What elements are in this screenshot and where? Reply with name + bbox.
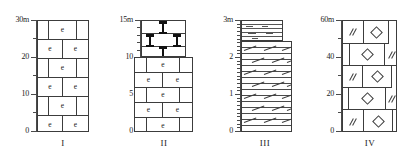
- axis-tick-minor: [237, 24, 240, 25]
- column-label-I: I: [33, 139, 93, 148]
- brick-row: [343, 21, 389, 44]
- axis-tick-minor: [237, 42, 240, 43]
- brick-cell: e: [163, 103, 192, 117]
- axis-tick-minor: [137, 42, 140, 43]
- brick-symbol: e: [48, 83, 51, 91]
- axis-tick-minor: [237, 127, 240, 128]
- brick-cell: [135, 118, 147, 132]
- brick-cell: [77, 59, 88, 77]
- limestone-line: [242, 113, 291, 114]
- brick-cell: [363, 66, 392, 87]
- brick-cell: [350, 44, 385, 65]
- brick-symbol: e: [161, 61, 164, 69]
- axis-tick-minor: [33, 75, 36, 76]
- shale-line: [242, 36, 282, 37]
- axis-tick-major: [235, 20, 240, 21]
- axis-tick-minor: [237, 90, 240, 91]
- brick-cell: [386, 88, 397, 109]
- axis-tick-minor: [237, 76, 240, 77]
- axis-label-0: 0: [100, 127, 133, 135]
- axis-tick-minor: [237, 113, 240, 114]
- brick-cell: [38, 59, 49, 77]
- shale-dash: [266, 33, 273, 34]
- brick-symbol: e: [161, 91, 164, 99]
- brick-cell: e: [63, 116, 88, 132]
- limestone-line: [242, 59, 291, 60]
- axis-label-30m: 30m: [0, 16, 29, 24]
- limestone-line: [242, 107, 291, 108]
- axis-tick-minor: [338, 75, 341, 76]
- brick-row: e: [135, 118, 192, 132]
- diamond-icon: [370, 26, 383, 39]
- brick-cell: [343, 66, 363, 87]
- figure-canvas: 30m 20 10 0 e e e e e e: [0, 0, 401, 157]
- column-I: 30m 20 10 0 e e e e e e: [0, 0, 100, 157]
- brick-symbol: e: [48, 121, 51, 129]
- brick-row: e: [38, 21, 88, 40]
- brick-cell: [180, 88, 192, 102]
- brick-cell: [38, 97, 49, 115]
- brick-cell: e: [38, 116, 63, 132]
- brick-cell: [180, 58, 192, 72]
- axis-tick-major: [336, 20, 341, 21]
- axis-label-10: 10: [0, 90, 29, 98]
- brick-row: [343, 110, 393, 132]
- axis-label-20: 20: [0, 53, 29, 61]
- axis-tick-minor: [137, 35, 140, 36]
- shale-pattern: [242, 21, 282, 40]
- brick-cell: e: [135, 103, 163, 117]
- brick-cell: e: [49, 59, 77, 77]
- brick-row: e e: [38, 116, 88, 132]
- axis-label-5: 5: [100, 90, 133, 98]
- diamond-icon: [372, 115, 385, 128]
- brick-symbol: e: [74, 45, 77, 53]
- axis-tick-minor: [237, 53, 240, 54]
- column-label-II: II: [134, 139, 194, 148]
- brick-cell: [77, 97, 88, 115]
- axis-tick-minor: [237, 116, 240, 117]
- axis-tick-minor: [33, 38, 36, 39]
- axis-tick-minor: [237, 61, 240, 62]
- column-IV: 60m 40 20 0: [300, 0, 401, 157]
- shale-dash: [246, 26, 253, 27]
- limestone-line: [242, 77, 291, 78]
- brick-symbol: e: [176, 76, 179, 84]
- brick-symbol: e: [147, 106, 150, 114]
- axis-tick-major: [31, 20, 36, 21]
- brick-symbol: e: [147, 76, 150, 84]
- brick-row: e e: [135, 103, 192, 118]
- brick-row: e: [135, 58, 192, 73]
- double-slash-icon: [388, 95, 396, 103]
- shale-dash: [248, 33, 256, 34]
- axis-tick-major: [31, 131, 36, 132]
- brick-symbol: e: [74, 121, 77, 129]
- brick-cell: [77, 21, 88, 39]
- brick-cell: e: [38, 40, 63, 58]
- brick-cell: e: [163, 73, 192, 87]
- column-label-IV: IV: [340, 139, 400, 148]
- axis-label-0: 0: [200, 127, 233, 135]
- axis-label-0: 0: [0, 127, 29, 135]
- axis-tick-major: [135, 20, 140, 21]
- brick-row: e e: [38, 78, 88, 97]
- shale-dash: [262, 26, 268, 27]
- laminated-limestone-pattern: [242, 42, 291, 131]
- axis-tick-major: [336, 94, 341, 95]
- axis-tick-minor: [237, 120, 240, 121]
- shale-dash: [252, 38, 258, 39]
- column-II: 15m 10 5 0 e e: [100, 0, 200, 157]
- bowtie-icon: [159, 21, 167, 34]
- shale-line: [242, 24, 282, 25]
- brick-symbol: e: [161, 122, 164, 130]
- brick-row: e e: [38, 40, 88, 59]
- brick-cell: [343, 21, 364, 43]
- axis-tick-minor: [237, 46, 240, 47]
- axis-tick-minor: [338, 112, 341, 113]
- double-slash-icon: [388, 51, 396, 59]
- brick-cell: e: [63, 40, 88, 58]
- brick-row: [343, 88, 396, 110]
- column-label-III: III: [235, 139, 295, 148]
- brick-cell: e: [49, 97, 77, 115]
- brick-cell: [135, 88, 147, 102]
- lithology-unit-shale-III: [241, 20, 283, 41]
